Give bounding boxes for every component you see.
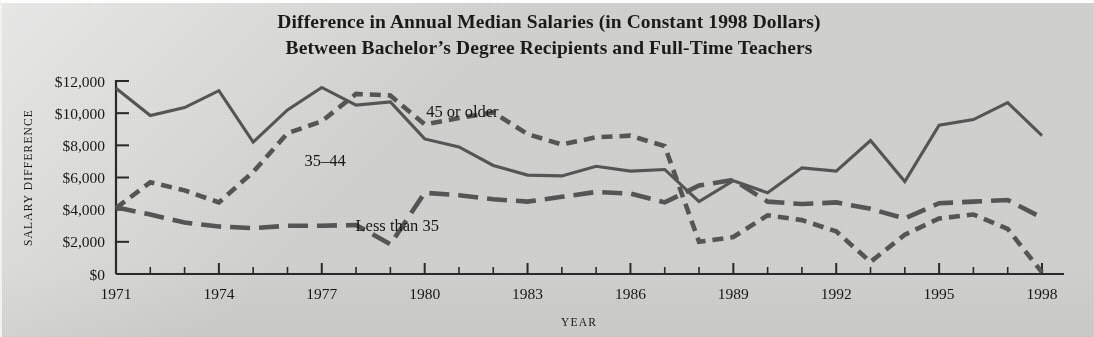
series-label-less-than-35: Less than 35 [356, 216, 439, 235]
x-axis-tick-label: 1977 [306, 285, 337, 302]
x-axis-title: YEAR [561, 316, 597, 328]
x-axis-tick-label: 1986 [615, 285, 646, 302]
y-axis-tick-label: $4,000 [62, 201, 105, 218]
y-axis-tick-label: $0 [90, 266, 106, 283]
x-axis-tick-label: 1983 [512, 285, 543, 302]
y-axis-tick-label: $8,000 [62, 137, 105, 154]
chart-figure: Difference in Annual Median Salaries (in… [0, 0, 1094, 337]
series-label-45-or-older: 45 or older [426, 102, 499, 121]
x-axis-tick-label: 1992 [821, 285, 852, 302]
x-axis: 1971197419771980198319861989199219951998 [101, 263, 1065, 302]
x-axis-tick-label: 1989 [718, 285, 749, 302]
x-axis-tick-label: 1995 [924, 285, 955, 302]
series-annotations: 45 or older35–44Less than 35 [305, 102, 500, 234]
y-axis-tick-label: $12,000 [55, 73, 106, 90]
y-axis-tick-label: $6,000 [62, 169, 105, 186]
x-axis-tick-label: 1971 [101, 285, 132, 302]
chart-title-block: Difference in Annual Median Salaries (in… [2, 9, 1094, 61]
series-line-45-or-older [116, 94, 1042, 273]
x-axis-tick-label: 1980 [409, 285, 440, 302]
y-axis-tick-label: $2,000 [62, 233, 105, 250]
y-axis-tick-label: $10,000 [55, 105, 106, 122]
y-axis: $0$2,000$4,000$6,000$8,000$10,000$12,000 [55, 73, 129, 283]
x-axis-tick-label: 1974 [203, 285, 234, 302]
data-series-group [116, 87, 1042, 272]
y-axis-title: SALARY DIFFERENCE [22, 109, 34, 246]
series-label-35-44: 35–44 [305, 151, 346, 170]
x-axis-tick-label: 1998 [1027, 285, 1058, 302]
series-line-35-44 [116, 87, 1042, 201]
chart-title-line-2: Between Bachelor’s Degree Recipients and… [2, 35, 1094, 61]
chart-title-line-1: Difference in Annual Median Salaries (in… [2, 9, 1094, 35]
